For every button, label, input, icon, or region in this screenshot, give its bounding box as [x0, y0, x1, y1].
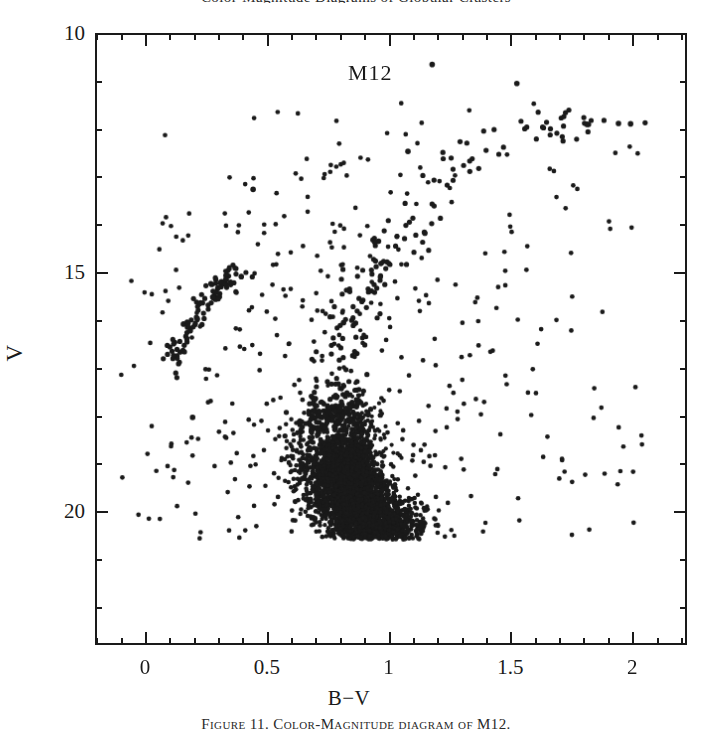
- x-axis-label-text: B−V: [328, 686, 371, 711]
- x-tick-minor: [535, 638, 537, 645]
- y-tick-minor: [95, 224, 102, 226]
- x-tick-label: 1.5: [497, 655, 523, 680]
- y-tick-minor-right: [680, 176, 687, 178]
- x-tick-label: 0: [140, 655, 151, 680]
- y-tick-minor-right: [680, 81, 687, 83]
- x-tick-major-top: [510, 33, 512, 46]
- x-tick-minor-top: [121, 33, 123, 40]
- x-tick-minor: [121, 638, 123, 645]
- y-tick-minor: [95, 368, 102, 370]
- x-tick-major-top: [267, 33, 269, 46]
- y-tick-minor-right: [680, 559, 687, 561]
- y-tick-minor-right: [680, 320, 687, 322]
- y-tick-minor-right: [680, 416, 687, 418]
- x-tick-minor-top: [608, 33, 610, 40]
- y-tick-minor-right: [680, 368, 687, 370]
- x-tick-minor-top: [657, 33, 659, 40]
- x-tick-major: [145, 632, 147, 645]
- y-tick-major-right: [674, 33, 687, 35]
- x-tick-minor: [583, 638, 585, 645]
- figure-container: Color-Magnitude Diagrams of Globular Clu…: [0, 0, 712, 737]
- x-tick-minor-top: [437, 33, 439, 40]
- y-tick-minor-right: [680, 129, 687, 131]
- x-tick-minor: [194, 638, 196, 645]
- x-tick-major: [510, 632, 512, 645]
- x-tick-minor-top: [194, 33, 196, 40]
- y-tick-minor-right: [680, 224, 687, 226]
- y-tick-minor: [95, 559, 102, 561]
- x-tick-minor: [242, 638, 244, 645]
- y-tick-minor: [95, 81, 102, 83]
- x-tick-minor: [169, 638, 171, 645]
- x-tick-minor: [315, 638, 317, 645]
- y-tick-minor: [95, 416, 102, 418]
- x-tick-minor-top: [413, 33, 415, 40]
- y-tick-minor: [95, 129, 102, 131]
- scatter-plot-canvas: [97, 35, 685, 643]
- x-tick-label: 1: [383, 655, 394, 680]
- y-tick-minor-right: [680, 463, 687, 465]
- x-tick-minor-top: [462, 33, 464, 40]
- y-tick-minor: [95, 176, 102, 178]
- x-tick-major-top: [389, 33, 391, 46]
- cluster-name-annotation: M12: [348, 60, 393, 86]
- x-tick-minor-top: [535, 33, 537, 40]
- x-tick-minor-top: [218, 33, 220, 40]
- x-tick-minor-top: [291, 33, 293, 40]
- y-tick-major: [95, 272, 108, 274]
- x-tick-minor-top: [315, 33, 317, 40]
- x-tick-minor: [486, 638, 488, 645]
- x-tick-minor-top: [340, 33, 342, 40]
- x-tick-minor-top: [364, 33, 366, 40]
- x-axis-label: B−V: [0, 686, 712, 711]
- x-tick-minor: [364, 638, 366, 645]
- y-tick-label: 15: [33, 260, 85, 285]
- x-tick-major-top: [145, 33, 147, 46]
- y-tick-major: [95, 511, 108, 513]
- y-tick-major: [95, 33, 108, 35]
- y-tick-minor-right: [680, 607, 687, 609]
- x-tick-minor: [218, 638, 220, 645]
- y-tick-major-right: [674, 272, 687, 274]
- x-tick-minor-top: [169, 33, 171, 40]
- x-tick-label: 2: [627, 655, 638, 680]
- y-tick-minor: [95, 607, 102, 609]
- x-tick-minor: [559, 638, 561, 645]
- x-tick-minor-top: [559, 33, 561, 40]
- y-axis-label: V: [2, 344, 28, 361]
- y-tick-major-right: [674, 511, 687, 513]
- x-tick-minor: [96, 638, 98, 645]
- x-tick-minor: [291, 638, 293, 645]
- x-tick-minor-top: [486, 33, 488, 40]
- x-tick-major: [389, 632, 391, 645]
- x-tick-minor: [413, 638, 415, 645]
- x-tick-minor-top: [242, 33, 244, 40]
- x-tick-minor: [681, 638, 683, 645]
- x-tick-minor: [462, 638, 464, 645]
- figure-caption-top: Color-Magnitude Diagrams of Globular Clu…: [0, 0, 712, 3]
- y-tick-label: 20: [33, 499, 85, 524]
- y-tick-minor: [95, 463, 102, 465]
- x-tick-minor-top: [583, 33, 585, 40]
- x-tick-major: [267, 632, 269, 645]
- y-tick-label: 10: [33, 21, 85, 46]
- plot-frame: [95, 33, 687, 645]
- x-tick-label: 0.5: [254, 655, 280, 680]
- y-tick-minor: [95, 320, 102, 322]
- x-tick-major: [632, 632, 634, 645]
- x-tick-minor: [340, 638, 342, 645]
- x-tick-minor: [437, 638, 439, 645]
- x-tick-major-top: [632, 33, 634, 46]
- x-tick-minor: [608, 638, 610, 645]
- x-tick-minor: [657, 638, 659, 645]
- figure-caption-bottom: Figure 11. Color-Magnitude diagram of M1…: [0, 716, 712, 737]
